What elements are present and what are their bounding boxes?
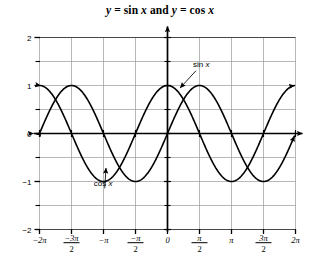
x-tick-label-numerator: −3π bbox=[64, 233, 79, 243]
y-tick-label: −2 bbox=[22, 226, 32, 235]
axis-ticks bbox=[35, 38, 296, 235]
x-tick-label-origin: 0 bbox=[165, 235, 170, 245]
x-tick-label: 2π bbox=[291, 235, 300, 245]
chart-figure: y = sin x and y = cos x 210−1−2−2π−3π2−π… bbox=[0, 0, 320, 265]
title-x2: x bbox=[208, 4, 214, 16]
y-tick-label: 1 bbox=[27, 82, 32, 91]
x-tick-label-denominator: 2 bbox=[133, 244, 137, 254]
x-tick-label: −π bbox=[99, 235, 110, 245]
y-tick-label: 2 bbox=[27, 34, 32, 43]
curve-label-cos: cos x bbox=[94, 179, 114, 188]
title-and: and bbox=[147, 4, 172, 16]
title-eq2: = cos bbox=[177, 4, 208, 16]
x-tick-label-numerator: π bbox=[197, 233, 202, 243]
x-tick-label-numerator: 3π bbox=[258, 233, 268, 243]
y-tick-label: 0 bbox=[27, 130, 32, 139]
x-tick-label-denominator: 2 bbox=[197, 244, 201, 254]
trig-plot: 210−1−2−2π−3π2−π−π20π2π3π22π sin xcos x bbox=[0, 0, 320, 265]
axis-lines bbox=[34, 27, 303, 232]
title-eq1: = sin bbox=[111, 4, 141, 16]
curve-label-sin: sin x bbox=[193, 60, 210, 69]
x-tick-label-denominator: 2 bbox=[69, 244, 73, 254]
x-tick-label-numerator: −π bbox=[131, 233, 142, 243]
curve-annotations: sin xcos x bbox=[94, 60, 211, 188]
x-tick-label-denominator: 2 bbox=[261, 244, 265, 254]
chart-title: y = sin x and y = cos x bbox=[0, 4, 320, 16]
x-tick-label: −2π bbox=[32, 235, 47, 245]
y-tick-label: −1 bbox=[22, 178, 32, 187]
x-tick-label: π bbox=[229, 235, 234, 245]
